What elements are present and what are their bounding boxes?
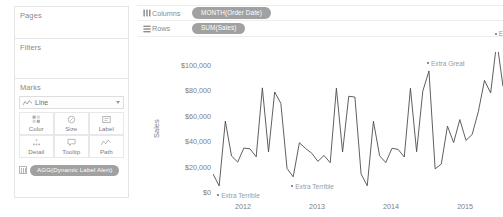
chart-plot-area[interactable] (213, 52, 503, 192)
mark-type-dropdown[interactable]: Line (19, 96, 124, 109)
path-button-label: Path (100, 148, 113, 155)
size-button[interactable]: Size (54, 112, 90, 136)
x-axis-tick: 2015 (457, 202, 473, 211)
y-axis-ticks: $0$20,000$40,000$60,000$80,000$100,000 (137, 40, 211, 180)
label-shelf-row: AGG(Dynamic Label Alert) (19, 165, 124, 176)
marks-sidebar: Pages Filters Marks Line (0, 0, 137, 217)
annotation-marker-icon (217, 194, 219, 196)
columns-shelf-label: Columns (152, 9, 192, 18)
chart-annotation: Extra Great (427, 60, 465, 67)
detail-button-label: Detail (28, 148, 44, 155)
columns-shelf[interactable]: Columns MONTH(Order Date) (137, 5, 503, 21)
rows-pill-sum-sales[interactable]: SUM(Sales) (192, 23, 245, 35)
marks-card-title: Marks (15, 79, 128, 95)
y-axis-tick: $80,000 (151, 86, 211, 95)
annotation-label: Extra Terrible (221, 192, 260, 199)
text-mark-icon (19, 166, 27, 174)
y-axis-tick: $40,000 (151, 137, 211, 146)
columns-icon (141, 9, 152, 17)
dynamic-label-alert-pill[interactable]: AGG(Dynamic Label Alert) (30, 165, 119, 176)
rows-shelf[interactable]: Rows SUM(Sales) (137, 21, 503, 37)
color-icon (32, 115, 41, 124)
marks-button-grid: Color Size (19, 112, 124, 158)
tooltip-button-label: Tooltip (62, 148, 80, 155)
y-axis-tick: $100,000 (151, 60, 211, 69)
pages-card[interactable]: Pages (14, 6, 129, 38)
y-axis-tick: $20,000 (151, 162, 211, 171)
annotation-label: Extra Terrible (295, 183, 334, 190)
line-mark-icon (23, 100, 32, 106)
annotation-marker-icon (427, 62, 429, 64)
color-button-label: Color (29, 125, 44, 132)
label-button-label: Label (99, 125, 114, 132)
annotation-marker-icon (495, 33, 497, 35)
rows-icon (141, 25, 152, 33)
path-icon (101, 138, 111, 147)
x-axis-tick: 2012 (235, 202, 251, 211)
annotation-marker-icon (291, 185, 293, 187)
y-axis-tick: $60,000 (151, 111, 211, 120)
label-icon (102, 115, 111, 124)
size-icon (67, 115, 76, 124)
pages-card-title: Pages (15, 7, 128, 23)
tableau-worksheet: Pages Filters Marks Line (0, 0, 503, 217)
path-button[interactable]: Path (89, 135, 125, 159)
rows-shelf-label: Rows (152, 24, 192, 33)
mark-type-label: Line (35, 99, 116, 106)
detail-icon (32, 138, 41, 147)
tooltip-button[interactable]: Tooltip (54, 135, 90, 159)
color-button[interactable]: Color (19, 112, 55, 136)
viz-area: Columns MONTH(Order Date) Rows SUM(Sales… (137, 0, 503, 217)
chevron-down-icon[interactable] (116, 101, 120, 104)
chart-annotation: Extra Terrible (291, 183, 334, 190)
detail-button[interactable]: Detail (19, 135, 55, 159)
filters-card[interactable]: Filters (14, 38, 129, 78)
chart-annotation: Extra Great (495, 30, 503, 37)
label-button[interactable]: Label (89, 112, 125, 136)
line-chart[interactable]: Sales $0$20,000$40,000$60,000$80,000$100… (137, 40, 503, 217)
x-axis-tick: 2014 (383, 202, 399, 211)
sales-line-series[interactable] (213, 52, 503, 186)
filters-card-title: Filters (15, 39, 128, 55)
size-button-label: Size (65, 125, 77, 132)
annotation-label: Extra Great (431, 60, 465, 67)
y-axis-tick: $0 (151, 188, 211, 197)
marks-card: Marks Line (14, 78, 129, 198)
x-axis-tick: 2013 (309, 202, 325, 211)
chart-annotation: Extra Terrible (217, 192, 260, 199)
tooltip-icon (67, 138, 76, 147)
columns-pill-order-date[interactable]: MONTH(Order Date) (192, 7, 271, 19)
annotation-label: Extra Great (499, 30, 503, 37)
